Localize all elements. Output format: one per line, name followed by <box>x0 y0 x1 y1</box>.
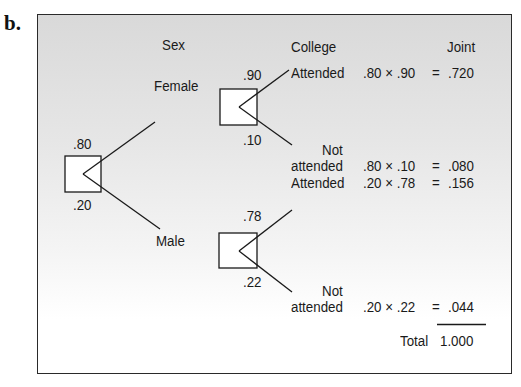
header-sex: Sex <box>162 36 185 54</box>
outcome-female-not-label-line2: attended <box>291 157 343 175</box>
header-college: College <box>291 38 336 56</box>
header-joint: Joint <box>447 38 475 56</box>
tree-lines <box>0 0 521 387</box>
branch-label-female: Female <box>154 77 198 95</box>
outcome-male-attended-label: Attended <box>291 174 344 192</box>
outcome-male-not-label-line2: attended <box>291 298 343 316</box>
outcome-female-attended-label: Attended <box>291 64 344 82</box>
outcome-male-attended-joint: .156 <box>448 174 474 192</box>
outcome-female-attended-expr: .80 × .90 <box>363 64 415 82</box>
outcome-male-not-expr: .20 × .22 <box>363 298 415 316</box>
outcome-male-attended-eq: = <box>432 174 440 192</box>
total-label: Total <box>400 332 428 350</box>
male-prob-not-attended: .22 <box>243 273 262 291</box>
outcome-male-not-eq: = <box>432 298 440 316</box>
outcome-female-not-joint: .080 <box>448 157 474 175</box>
root-prob-male: .20 <box>73 196 92 214</box>
outcome-female-not-eq: = <box>432 157 440 175</box>
total-value: 1.000 <box>440 332 473 350</box>
outcome-female-attended-eq: = <box>432 64 440 82</box>
female-prob-attended: .90 <box>243 66 262 84</box>
root-prob-female: .80 <box>73 135 92 153</box>
outcome-male-attended-expr: .20 × .78 <box>363 174 415 192</box>
outcome-female-attended-joint: .720 <box>448 64 474 82</box>
female-prob-not-attended: .10 <box>243 131 262 149</box>
branch-label-male: Male <box>156 232 185 250</box>
outcome-male-not-joint: .044 <box>448 298 474 316</box>
outcome-female-not-expr: .80 × .10 <box>363 157 415 175</box>
male-prob-attended: .78 <box>243 207 262 225</box>
